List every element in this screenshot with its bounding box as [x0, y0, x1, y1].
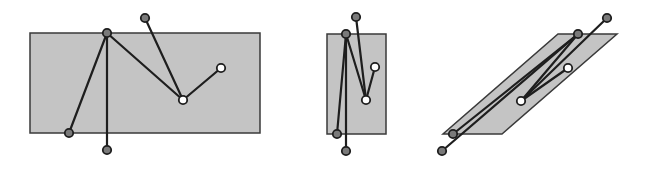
panel-rectangle-narrow — [327, 13, 386, 155]
edge-top-vertex-bottom-stem — [442, 34, 578, 151]
diagram-stage — [0, 0, 645, 174]
node-top-outside — [603, 14, 611, 22]
shape-parallelogram-sheared — [443, 34, 617, 134]
node-inner-mid — [179, 96, 187, 104]
shear-transform-diagram — [0, 0, 645, 174]
panel-rectangle-wide — [30, 14, 260, 154]
node-top-outside — [141, 14, 149, 22]
node-bottom-stem — [438, 147, 446, 155]
node-inner-right — [564, 64, 572, 72]
panel-parallelogram-sheared — [438, 14, 617, 155]
node-inner-mid — [362, 96, 370, 104]
shape-rectangle-narrow — [327, 34, 386, 134]
node-bottom-stem — [103, 146, 111, 154]
node-inner-mid — [517, 97, 525, 105]
node-inner-right — [371, 63, 379, 71]
node-inner-right — [217, 64, 225, 72]
node-top-vertex — [342, 30, 350, 38]
node-bottom-stem — [342, 147, 350, 155]
shape-rectangle-wide — [30, 33, 260, 133]
node-bottom-left — [449, 130, 457, 138]
node-bottom-left — [65, 129, 73, 137]
node-top-vertex — [574, 30, 582, 38]
node-bottom-left — [333, 130, 341, 138]
node-top-vertex — [103, 29, 111, 37]
node-top-outside — [352, 13, 360, 21]
